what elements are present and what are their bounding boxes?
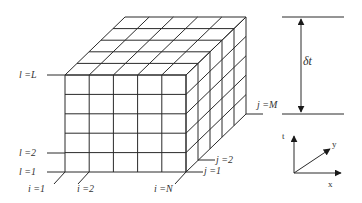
label-x-axis: x (328, 179, 333, 189)
right-depth-line (186, 36, 246, 94)
label-j-2: j =2 (214, 154, 233, 165)
right-depth-line (186, 95, 246, 153)
delta-t-indicator: δt (282, 17, 344, 114)
top-depth-line (65, 17, 125, 75)
label-i-2: i =2 (77, 183, 94, 194)
top-depth-line (138, 17, 198, 75)
top-depth-line (113, 17, 173, 75)
label-l-1: l =1 (19, 166, 36, 177)
cube-grid (65, 17, 246, 172)
top-depth-line (162, 17, 222, 75)
label-t-axis: t (282, 131, 285, 141)
label-j-M: j =M (255, 99, 278, 110)
label-l-2: l =2 (19, 147, 36, 158)
grid-diagram: l =L l =2 l =1 i =1 i =2 i =N j =1 j =2 … (0, 0, 362, 203)
i-N-tick (175, 172, 186, 184)
label-y-axis: y (332, 139, 337, 149)
right-depth-line (186, 75, 246, 133)
top-depth-line (89, 17, 149, 75)
right-depth-line (186, 17, 246, 75)
label-i-N: i =N (154, 183, 174, 194)
y-axis-arrow (294, 149, 330, 173)
i-1-tick (54, 172, 65, 184)
label-delta-t: δt (303, 54, 313, 68)
right-depth-line (186, 56, 246, 114)
label-l-L: l =L (19, 69, 37, 80)
axes-indicator: t x y (282, 131, 341, 189)
label-i-1: i =1 (28, 183, 45, 194)
label-j-1: j =1 (202, 165, 221, 176)
